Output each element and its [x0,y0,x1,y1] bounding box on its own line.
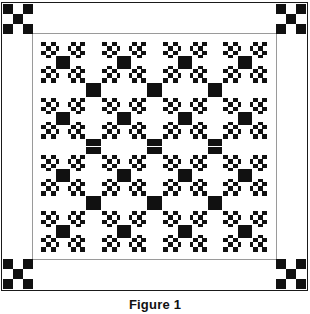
corner-nine-patch-bottom-left [3,259,33,289]
corner-patch-cell-7 [286,279,296,289]
corner-patch-cell-4 [13,14,23,24]
corner-patch-cell-1 [286,4,296,14]
corner-patch-cell-3 [276,269,286,279]
corner-patch-cell-2 [23,4,33,14]
quilt-diagram [1,2,308,291]
quilt-block-grid [33,34,276,259]
corner-patch-cell-3 [3,269,13,279]
figure-container: Figure 1 [0,0,310,314]
corner-patch-cell-6 [276,24,286,34]
corner-patch-cell-0 [276,259,286,269]
block-r2c4 [215,90,276,146]
corner-patch-cell-5 [23,269,33,279]
corner-patch-cell-2 [296,4,306,14]
block-r3c3 [155,147,216,203]
block-r3c2 [94,147,155,203]
corner-patch-cell-7 [13,24,23,34]
corner-patch-cell-1 [286,259,296,269]
corner-patch-cell-7 [13,279,23,289]
corner-patch-cell-2 [296,259,306,269]
corner-patch-cell-5 [296,269,306,279]
block-r2c1 [33,90,94,146]
corner-patch-cell-4 [286,14,296,24]
corner-patch-cell-8 [296,279,306,289]
corner-patch-cell-3 [276,14,286,24]
corner-patch-cell-6 [276,279,286,289]
corner-patch-cell-3 [3,14,13,24]
corner-patch-cell-1 [13,4,23,14]
block-r2c2 [94,90,155,146]
corner-patch-cell-8 [296,24,306,34]
figure-caption: Figure 1 [0,297,310,312]
corner-nine-patch-top-left [3,4,33,34]
block-r3c1 [33,147,94,203]
block-r4c3 [155,203,216,259]
corner-nine-patch-bottom-right [276,259,306,289]
block-r1c4 [215,34,276,90]
corner-patch-cell-8 [23,24,33,34]
corner-patch-cell-0 [3,259,13,269]
block-r4c4 [215,203,276,259]
block-r1c2 [94,34,155,90]
corner-patch-cell-2 [23,259,33,269]
block-r4c2 [94,203,155,259]
corner-patch-cell-5 [296,14,306,24]
block-r1c3 [155,34,216,90]
block-r2c3 [155,90,216,146]
corner-patch-cell-6 [3,279,13,289]
corner-patch-cell-1 [13,259,23,269]
block-r3c4 [215,147,276,203]
corner-patch-cell-0 [3,4,13,14]
block-r1c1 [33,34,94,90]
corner-patch-cell-7 [286,24,296,34]
corner-nine-patch-top-right [276,4,306,34]
corner-patch-cell-5 [23,14,33,24]
corner-patch-cell-0 [276,4,286,14]
block-r4c1 [33,203,94,259]
corner-patch-cell-8 [23,279,33,289]
corner-patch-cell-6 [3,24,13,34]
corner-patch-cell-4 [13,269,23,279]
corner-patch-cell-4 [286,269,296,279]
